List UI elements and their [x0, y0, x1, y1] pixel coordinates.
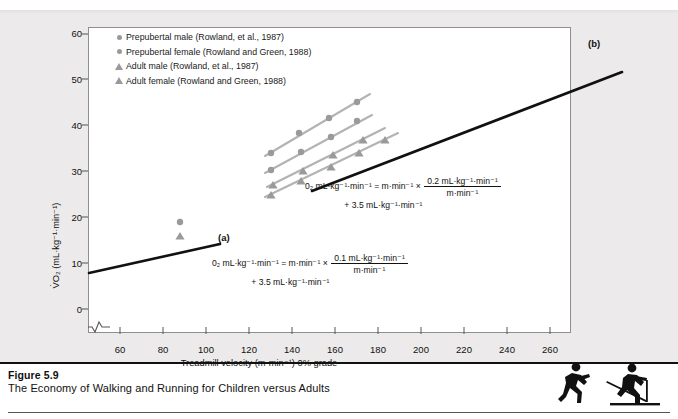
running-equation: 0₂ mL·kg⁻¹·min⁻¹ = m·min⁻¹ × 0.2 mL·kg⁻¹…: [305, 176, 502, 210]
activity-icons: [548, 358, 668, 410]
panel-label-a: (a): [218, 232, 230, 243]
x-tick-220: 220: [449, 344, 479, 355]
walking-equation: 0₂ mL·kg⁻¹·min⁻¹ = m·min⁻¹ × 0.1 mL·kg⁻¹…: [212, 253, 409, 287]
y-tick-50: 50: [56, 75, 82, 85]
x-tick-60: 60: [105, 344, 135, 355]
y-axis-title-wrap: V̇O₂ (mL·kg⁻¹·min⁻¹): [32, 90, 52, 290]
running-equation-numerator: 0.2 mL·kg⁻¹·min⁻¹: [424, 176, 501, 188]
x-tick-marks: [120, 327, 550, 334]
triangle-marker-icon: [112, 63, 126, 70]
walking-equation-second-line: + 3.5 mL·kg⁻¹·min⁻¹: [172, 277, 409, 287]
y-tick-40: 40: [56, 121, 82, 131]
legend-item-adult-male: Adult male (Rowland, et al., 1987): [112, 59, 432, 74]
x-tick-100: 100: [191, 344, 221, 355]
legend-label: Adult female (Rowland and Green, 1988): [126, 76, 286, 86]
running-equation-denominator: m·min⁻¹: [424, 187, 501, 198]
legend-item-prepubertal-female: Prepubertal female (Rowland and Green, 1…: [112, 45, 432, 60]
figure-caption: Figure 5.9 The Economy of Walking and Ru…: [0, 362, 678, 394]
x-axis-break: [88, 322, 110, 332]
runner-icon: [558, 363, 590, 403]
x-tick-180: 180: [363, 344, 393, 355]
walking-equation-numerator: 0.1 mL·kg⁻¹·min⁻¹: [331, 253, 408, 265]
x-tick-260: 260: [535, 344, 565, 355]
running-equation-lhs: 0₂ mL·kg⁻¹·min⁻¹ = m·min⁻¹ ×: [305, 181, 421, 191]
legend-label: Adult male (Rowland, et al., 1987): [126, 61, 259, 71]
skier-icon: [606, 364, 660, 406]
running-equation-fraction: 0.2 mL·kg⁻¹·min⁻¹ m·min⁻¹: [424, 176, 501, 198]
x-tick-140: 140: [277, 344, 307, 355]
x-tick-240: 240: [492, 344, 522, 355]
legend-item-prepubertal-male: Prepubertal male (Rowland, et al., 1987): [112, 30, 432, 45]
x-tick-200: 200: [406, 344, 436, 355]
walking-equation-fraction: 0.1 mL·kg⁻¹·min⁻¹ m·min⁻¹: [331, 253, 408, 275]
x-tick-80: 80: [148, 344, 178, 355]
legend-label: Prepubertal male (Rowland, et al., 1987): [126, 32, 284, 42]
x-tick-120: 120: [234, 344, 264, 355]
y-tick-60: 60: [56, 29, 82, 39]
y-axis-title: V̇O₂ (mL·kg⁻¹·min⁻¹): [50, 161, 61, 331]
legend-item-adult-female: Adult female (Rowland and Green, 1988): [112, 74, 432, 89]
y-tick-marks: [82, 34, 88, 309]
caption-bottom-rule: [8, 412, 670, 413]
panel-label-b: (b): [588, 38, 600, 49]
circle-marker-icon: [112, 35, 126, 40]
walking-prediction-line: [89, 244, 220, 273]
circle-marker-icon: [112, 49, 126, 54]
chart-legend: Prepubertal male (Rowland, et al., 1987)…: [112, 30, 432, 88]
x-tick-160: 160: [320, 344, 350, 355]
walking-equation-lhs: 0₂ mL·kg⁻¹·min⁻¹ = m·min⁻¹ ×: [212, 258, 328, 268]
running-equation-second-line: + 3.5 mL·kg⁻¹·min⁻¹: [265, 200, 502, 210]
legend-label: Prepubertal female (Rowland and Green, 1…: [126, 47, 311, 57]
running-prediction-line: [312, 72, 622, 191]
walking-equation-denominator: m·min⁻¹: [331, 264, 408, 275]
triangle-marker-icon: [112, 77, 126, 84]
figure-container: Prepubertal male (Rowland, et al., 1987)…: [0, 0, 678, 419]
